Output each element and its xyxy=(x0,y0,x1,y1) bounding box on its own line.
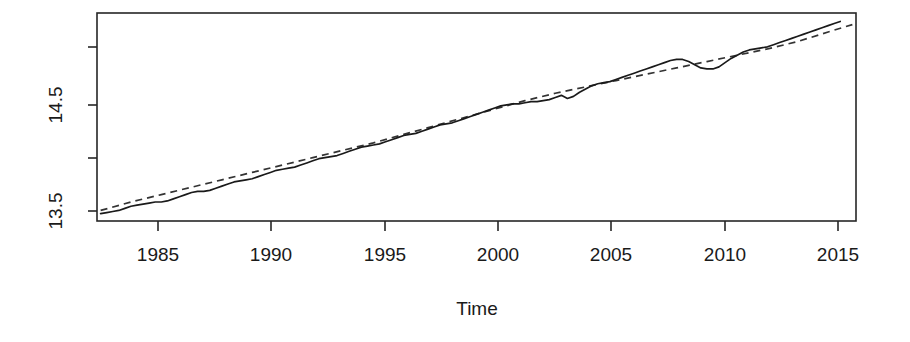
chart-figure: 13.5 14.5 1985 1990 1995 2000 2005 2010 … xyxy=(0,0,910,342)
series-fitted-trend-line xyxy=(101,25,853,211)
x-tick-label: 2005 xyxy=(590,244,632,265)
x-axis-ticks xyxy=(158,221,838,231)
x-tick-label: 2000 xyxy=(477,244,519,265)
y-axis-tick-labels: 13.5 14.5 xyxy=(45,87,66,230)
y-axis-ticks xyxy=(88,47,97,211)
x-tick-label: 1995 xyxy=(364,244,406,265)
x-tick-label: 2010 xyxy=(704,244,746,265)
plot-canvas: 13.5 14.5 1985 1990 1995 2000 2005 2010 … xyxy=(0,0,910,342)
y-tick-label: 14.5 xyxy=(45,87,66,124)
series-observed-line xyxy=(101,21,841,213)
x-axis-title: Time xyxy=(456,298,498,319)
x-tick-label: 1985 xyxy=(137,244,179,265)
y-tick-label: 13.5 xyxy=(45,193,66,230)
x-axis-tick-labels: 1985 1990 1995 2000 2005 2010 2015 xyxy=(137,244,859,265)
x-tick-label: 1990 xyxy=(250,244,292,265)
x-tick-label: 2015 xyxy=(817,244,859,265)
